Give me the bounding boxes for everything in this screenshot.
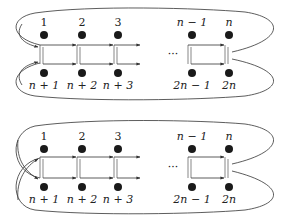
top-bottom-labels: n + 1 n + 2 n + 3 2n − 1 2n (29, 79, 236, 92)
svg-text:n − 1: n − 1 (177, 16, 207, 29)
svg-text:n − 1: n − 1 (177, 130, 207, 143)
bottom-vertices (40, 145, 233, 191)
bottom-horizontal-arrows (40, 157, 224, 178)
svg-text:3: 3 (115, 16, 122, 29)
top-diagram: 1 2 3 n − 1 n n + 1 n + 2 n + 3 2n − 1 2… (16, 8, 274, 100)
svg-text:2n: 2n (221, 193, 236, 206)
bottom-top-labels: 1 2 3 n − 1 n (41, 130, 233, 143)
svg-text:n + 1: n + 1 (29, 79, 59, 92)
svg-text:n: n (225, 130, 232, 143)
svg-text:n + 1: n + 1 (29, 193, 59, 206)
top-columns (40, 45, 228, 64)
svg-text:n + 3: n + 3 (103, 193, 133, 206)
svg-text:2n − 1: 2n − 1 (172, 79, 210, 92)
top-top-labels: 1 2 3 n − 1 n (41, 16, 233, 29)
svg-text:n + 3: n + 3 (103, 79, 133, 92)
top-ellipsis: ··· (168, 48, 179, 61)
top-vertices (40, 31, 233, 77)
svg-text:n + 2: n + 2 (67, 79, 97, 92)
svg-text:2n: 2n (221, 79, 236, 92)
bottom-ellipsis: ··· (168, 161, 179, 174)
svg-text:n: n (225, 16, 232, 29)
svg-text:3: 3 (115, 130, 122, 143)
svg-text:n + 2: n + 2 (67, 193, 97, 206)
bottom-bottom-labels: n + 1 n + 2 n + 3 2n − 1 2n (29, 193, 236, 206)
svg-text:2: 2 (79, 16, 86, 29)
bottom-columns (40, 157, 228, 178)
bottom-diagram: 1 2 3 n − 1 n n + 1 n + 2 n + 3 2n − 1 2… (16, 121, 274, 214)
svg-text:2: 2 (79, 130, 86, 143)
top-horizontal-arrows (40, 45, 224, 64)
svg-text:1: 1 (41, 16, 48, 29)
svg-text:1: 1 (41, 130, 48, 143)
diagram-canvas: 1 2 3 n − 1 n n + 1 n + 2 n + 3 2n − 1 2… (0, 0, 286, 219)
bottom-oval-upper (16, 121, 274, 179)
svg-text:2n − 1: 2n − 1 (172, 193, 210, 206)
